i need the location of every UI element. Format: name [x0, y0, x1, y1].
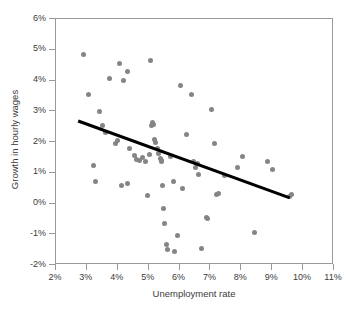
chart-title [0, 0, 347, 2]
y-axis-title: Growth in hourly wages [9, 40, 20, 240]
x-axis-tick [86, 264, 87, 270]
x-axis-tick [117, 264, 118, 270]
trendline [55, 18, 333, 264]
x-axis-tick [240, 264, 241, 270]
x-axis-tick [333, 264, 334, 270]
trendline-segment [78, 121, 290, 198]
x-axis-title: Unemployment rate [55, 288, 333, 299]
x-axis-tick [55, 264, 56, 270]
y-axis-tick-label: 6% [6, 14, 46, 23]
x-axis-tick [271, 264, 272, 270]
x-axis-tick [179, 264, 180, 270]
x-axis-tick-label: 11% [313, 272, 347, 282]
y-axis-tick-label: -2% [6, 260, 46, 269]
x-axis-tick [148, 264, 149, 270]
x-axis-tick [209, 264, 210, 270]
scatter-chart: -2%-1%0%1%2%3%4%5%6% 2%3%4%5%6%7%8%9%10%… [0, 0, 347, 317]
x-axis-tick [302, 264, 303, 270]
